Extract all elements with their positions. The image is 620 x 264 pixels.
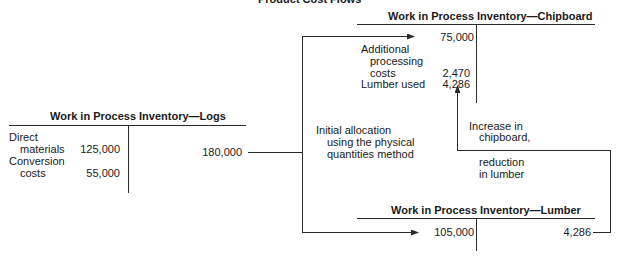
chipboard-additional-label-1: Additional [361, 43, 409, 55]
transfer-note-top-2: chipboard, [479, 131, 530, 143]
chipboard-additional-label-2: processing [370, 55, 423, 67]
lumber-account-title: Work in Process Inventory—Lumber [391, 204, 581, 216]
allocation-note-2: using the physical [327, 136, 414, 148]
lumber-debit-value: 105,000 [420, 226, 474, 238]
transfer-note-bottom-2: in lumber [479, 168, 524, 180]
logs-direct-label-2: materials [20, 143, 65, 155]
logs-credit-value: 180,000 [190, 146, 242, 158]
logs-direct-value: 125,000 [70, 143, 120, 155]
chipboard-lumber-used-value: 4,286 [420, 78, 470, 90]
logs-account-title: Work in Process Inventory—Logs [50, 110, 226, 122]
transfer-note-bottom-1: reduction [479, 156, 524, 168]
diagram-title: Product Cost Flows [258, 0, 361, 5]
chipboard-lumber-used-label: Lumber used [361, 78, 425, 90]
logs-conversion-value: 55,000 [70, 167, 120, 179]
chipboard-account-title: Work in Process Inventory—Chipboard [388, 10, 593, 22]
lumber-credit-value: 4,286 [545, 226, 591, 238]
logs-direct-label-1: Direct [9, 131, 38, 143]
chipboard-allocation-value: 75,000 [420, 31, 474, 43]
logs-conversion-label-1: Conversion [9, 155, 65, 167]
allocation-note-1: Initial allocation [316, 124, 391, 136]
logs-conversion-label-2: costs [20, 167, 46, 179]
allocation-note-3: quantities method [327, 148, 414, 160]
